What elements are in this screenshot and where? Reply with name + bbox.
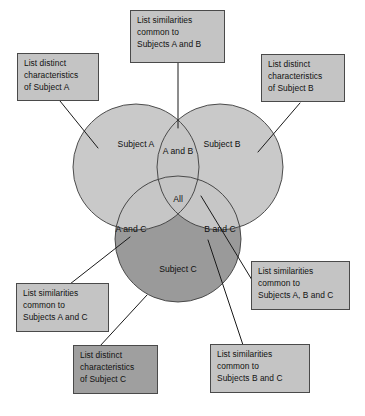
region-label-subject-b: Subject B [203,139,240,149]
callout-similarities-subjects-a-and-c: List similarities common to Subjects A a… [16,283,109,332]
callout-distinct-characteristics-subject-a: List distinct characteristics of Subject… [17,53,99,101]
region-label-subject-a: Subject A [118,139,155,149]
region-label-b-and-c: B and C [204,224,235,234]
region-label-subject-c: Subject C [159,264,197,274]
callout-similarities-subjects-b-and-c: List similarities common to Subjects B a… [210,344,310,393]
region-label-all: All [173,194,183,204]
venn-diagram-figure: Subject A Subject B A and B All A and C … [0,0,365,416]
region-label-a-and-b: A and B [163,146,193,156]
callout-similarities-subjects-a-and-b: List similarities common to Subjects A a… [130,10,225,63]
callout-distinct-characteristics-subject-b: List distinct characteristics of Subject… [261,54,345,102]
callout-distinct-characteristics-subject-c: List distinct characteristics of Subject… [73,345,158,394]
callout-similarities-subjects-a-b-and-c: List similarities common to Subjects A, … [251,261,350,310]
region-label-a-and-c: A and C [116,224,147,234]
